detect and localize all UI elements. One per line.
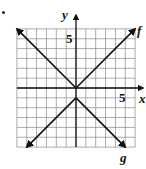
y-tick-label: 5	[66, 32, 73, 45]
x-tick-label: 5	[119, 91, 126, 104]
graph-g	[76, 98, 125, 147]
y-axis-label: y	[62, 8, 68, 21]
graph-g	[27, 98, 76, 147]
x-axis-label: x	[139, 92, 146, 105]
g-label: g	[120, 151, 127, 164]
f-label: f	[137, 24, 141, 37]
coordinate-plane	[0, 0, 146, 169]
